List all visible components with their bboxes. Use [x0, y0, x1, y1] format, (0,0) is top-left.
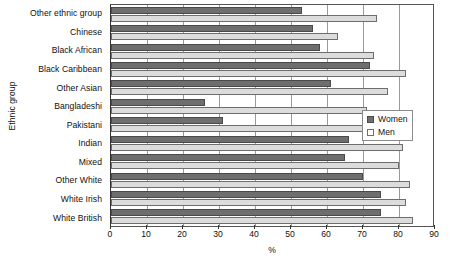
- bar-men: [111, 162, 399, 169]
- category-label: Chinese: [0, 23, 106, 42]
- legend-label-women: Women: [378, 114, 407, 124]
- bar-women: [111, 136, 349, 143]
- bar-row: [111, 42, 433, 60]
- category-label: Other Asian: [0, 78, 106, 97]
- category-label: Black African: [0, 41, 106, 60]
- category-label: Other White: [0, 171, 106, 190]
- category-label: Other ethnic group: [0, 4, 106, 23]
- x-tick-mark: [362, 225, 363, 229]
- category-label: Indian: [0, 134, 106, 153]
- x-axis-tick-labels: 0102030405060708090: [110, 229, 434, 243]
- category-label: Black Caribbean: [0, 60, 106, 79]
- bar-women: [111, 117, 223, 124]
- x-tick-label: 40: [249, 229, 259, 239]
- category-label: Mixed: [0, 153, 106, 172]
- bar-women: [111, 99, 205, 106]
- x-tick-mark: [254, 225, 255, 229]
- chart-legend: Women Men: [362, 110, 413, 141]
- x-tick-label: 0: [108, 229, 113, 239]
- x-tick-label: 30: [213, 229, 223, 239]
- bar-women: [111, 191, 381, 198]
- x-tick-mark: [398, 225, 399, 229]
- x-tick-mark: [326, 225, 327, 229]
- bar-women: [111, 62, 370, 69]
- x-axis-title: %: [110, 245, 434, 257]
- bar-women: [111, 25, 313, 32]
- x-tick-mark: [434, 225, 435, 229]
- legend-swatch-women-icon: [367, 116, 374, 123]
- x-tick-mark: [290, 225, 291, 229]
- bar-women: [111, 80, 331, 87]
- x-tick-mark: [218, 225, 219, 229]
- bar-row: [111, 152, 433, 170]
- bar-row: [111, 208, 433, 226]
- bar-men: [111, 107, 367, 114]
- bar-chart: Ethnic group Other ethnic groupChineseBl…: [0, 0, 450, 262]
- category-label-list: Other ethnic groupChineseBlack AfricanBl…: [0, 4, 106, 227]
- x-tick-label: 20: [177, 229, 187, 239]
- x-tick-label: 50: [285, 229, 295, 239]
- bar-row: [111, 79, 433, 97]
- bar-men: [111, 217, 413, 224]
- legend-item-women: Women: [367, 114, 407, 124]
- category-label: White British: [0, 208, 106, 227]
- legend-item-men: Men: [367, 127, 407, 137]
- bar-men: [111, 181, 410, 188]
- x-tick-mark: [110, 225, 111, 229]
- bar-row: [111, 5, 433, 23]
- bar-men: [111, 144, 403, 151]
- bar-men: [111, 199, 406, 206]
- legend-label-men: Men: [378, 127, 395, 137]
- bar-row: [111, 23, 433, 41]
- bar-men: [111, 88, 388, 95]
- x-tick-label: 10: [141, 229, 151, 239]
- bar-men: [111, 15, 377, 22]
- x-tick-label: 90: [429, 229, 439, 239]
- bar-row: [111, 189, 433, 207]
- bar-women: [111, 173, 363, 180]
- bar-row: [111, 171, 433, 189]
- legend-swatch-men-icon: [367, 129, 374, 136]
- bar-men: [111, 70, 406, 77]
- bar-women: [111, 44, 320, 51]
- bar-women: [111, 209, 381, 216]
- x-tick-label: 70: [357, 229, 367, 239]
- category-label: Pakistani: [0, 115, 106, 134]
- x-tick-mark: [146, 225, 147, 229]
- bar-men: [111, 52, 374, 59]
- bar-women: [111, 7, 302, 14]
- category-label: Bangladeshi: [0, 97, 106, 116]
- bar-women: [111, 154, 345, 161]
- bar-row: [111, 60, 433, 78]
- x-tick-label: 60: [321, 229, 331, 239]
- category-label: White Irish: [0, 190, 106, 209]
- x-tick-mark: [182, 225, 183, 229]
- bar-men: [111, 33, 338, 40]
- x-tick-label: 80: [393, 229, 403, 239]
- bar-men: [111, 125, 370, 132]
